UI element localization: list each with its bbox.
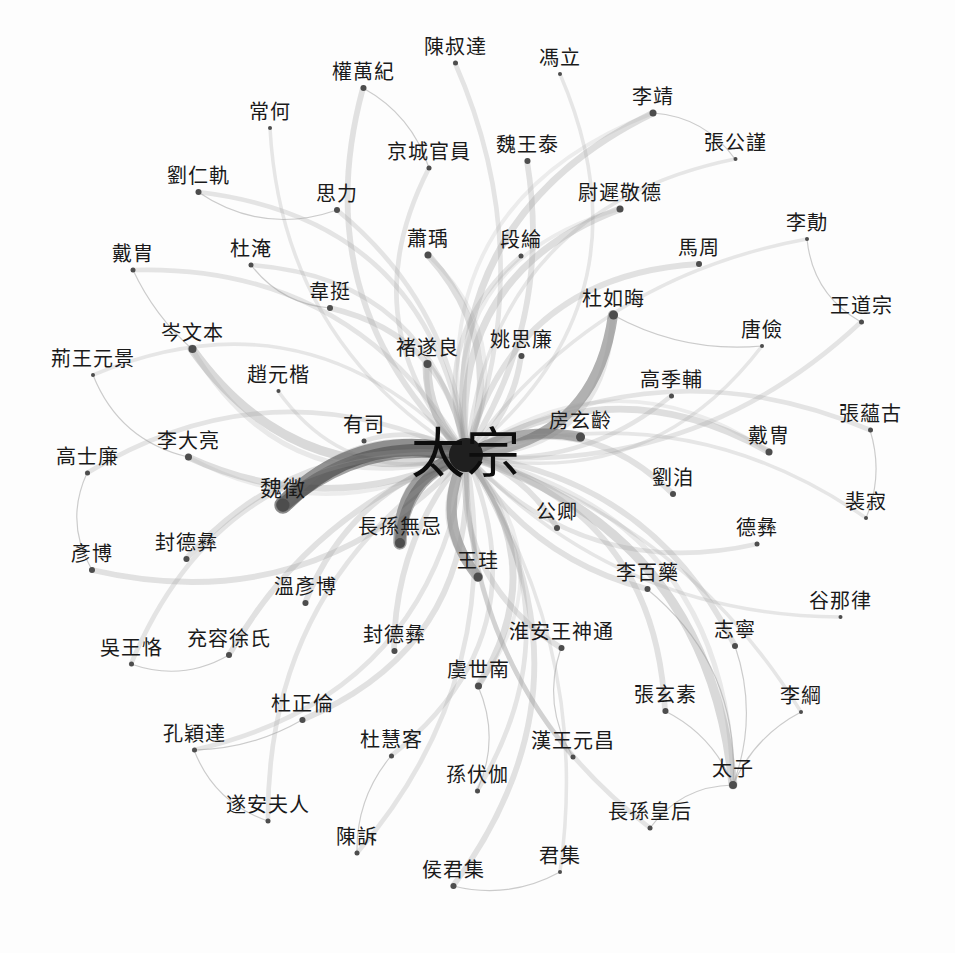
graph-node[interactable]: 馮立 — [539, 64, 581, 84]
graph-node[interactable]: 公卿 — [536, 518, 578, 538]
graph-node[interactable]: 王珪 — [457, 567, 499, 587]
graph-node[interactable]: 段綸 — [500, 246, 542, 266]
graph-node[interactable]: 侯君集 — [422, 876, 485, 896]
node-dot-icon — [192, 748, 197, 753]
graph-node[interactable]: 劉仁軌 — [167, 182, 230, 202]
node-dot-icon — [360, 85, 366, 91]
node-dot-icon — [755, 542, 760, 547]
graph-node[interactable]: 長孫無忌 — [358, 533, 442, 553]
graph-node[interactable]: 淮安王神通 — [509, 638, 614, 658]
graph-node[interactable]: 馬周 — [678, 254, 720, 274]
node-label: 遂安夫人 — [226, 795, 310, 815]
node-dot-icon — [732, 643, 738, 649]
graph-node[interactable]: 張蘊古 — [839, 420, 902, 440]
graph-node[interactable]: 張玄素 — [634, 701, 697, 721]
graph-node[interactable]: 思力 — [316, 200, 358, 220]
graph-node[interactable]: 遂安夫人 — [226, 811, 310, 831]
node-label: 孫伏伽 — [446, 765, 509, 785]
node-label: 谷那律 — [809, 591, 872, 611]
graph-node[interactable]: 杜淹 — [230, 255, 272, 275]
graph-node[interactable]: 趙元楷 — [247, 381, 310, 401]
node-dot-icon — [868, 428, 873, 433]
node-label: 德彝 — [736, 518, 778, 538]
graph-node[interactable]: 陳訴 — [336, 843, 378, 863]
graph-node[interactable]: 高士廉 — [56, 463, 119, 483]
graph-node[interactable]: 溫彥博 — [274, 593, 337, 613]
graph-node[interactable]: 裴寂 — [845, 508, 887, 528]
node-label: 尉遲敬德 — [578, 183, 662, 203]
graph-node[interactable]: 杜正倫 — [271, 710, 334, 730]
graph-node[interactable]: 封德彝 — [155, 549, 218, 569]
graph-node[interactable]: 谷那律 — [809, 607, 872, 627]
graph-node[interactable]: 常何 — [249, 118, 291, 138]
graph-node[interactable]: 彥博 — [71, 560, 113, 580]
graph-node[interactable]: 德彝 — [736, 534, 778, 554]
graph-node[interactable]: 王道宗 — [830, 312, 893, 332]
graph-node[interactable]: 吳王恪 — [100, 654, 163, 674]
graph-node[interactable]: 魏徵 — [260, 494, 306, 516]
node-label: 侯君集 — [422, 860, 485, 880]
node-dot-icon — [276, 389, 280, 393]
graph-node[interactable]: 孔穎達 — [163, 740, 226, 760]
graph-node[interactable]: 高季輔 — [640, 386, 703, 406]
node-dot-icon — [554, 525, 560, 531]
node-dot-icon — [268, 126, 272, 130]
node-dot-icon — [696, 261, 702, 267]
graph-node[interactable]: 戴胄 — [112, 260, 154, 280]
graph-node[interactable]: 志寧 — [714, 636, 756, 656]
graph-node[interactable]: 戴冑 — [748, 442, 790, 462]
node-label: 李靖 — [632, 87, 674, 107]
graph-node[interactable]: 李大亮 — [157, 447, 220, 467]
graph-node[interactable]: 姚思廉 — [490, 346, 553, 366]
node-label: 淮安王神通 — [509, 622, 614, 642]
node-label: 李勣 — [786, 213, 828, 233]
graph-node[interactable]: 杜慧客 — [360, 746, 423, 766]
node-dot-icon — [644, 586, 650, 592]
graph-node[interactable]: 孫伏伽 — [446, 781, 509, 801]
graph-node[interactable]: 虞世南 — [447, 676, 510, 696]
graph-node[interactable]: 李勣 — [786, 229, 828, 249]
graph-node[interactable]: 李靖 — [632, 103, 674, 123]
graph-node[interactable]: 荊王元景 — [51, 365, 135, 385]
node-dot-icon — [766, 449, 773, 456]
graph-node[interactable]: 漢王元昌 — [531, 747, 615, 767]
graph-node-hub[interactable]: 太宗 — [411, 428, 521, 482]
node-dot-icon — [131, 268, 136, 273]
graph-node[interactable]: 唐儉 — [741, 336, 783, 356]
node-label: 彥博 — [71, 544, 113, 564]
graph-node[interactable]: 褚遂良 — [396, 354, 459, 374]
node-label: 杜淹 — [230, 239, 272, 259]
graph-node[interactable]: 韋挺 — [309, 298, 351, 318]
graph-node[interactable]: 長孫皇后 — [608, 818, 692, 838]
node-dot-icon — [355, 851, 360, 856]
graph-node[interactable]: 太子 — [712, 775, 754, 795]
graph-node[interactable]: 李百藥 — [616, 579, 679, 599]
node-dot-icon — [183, 556, 189, 562]
node-dot-icon — [518, 353, 524, 359]
node-label: 張蘊古 — [839, 404, 902, 424]
graph-node[interactable]: 有司 — [343, 431, 385, 451]
graph-node[interactable]: 杜如晦 — [582, 305, 645, 325]
graph-node[interactable]: 陳叔達 — [424, 53, 487, 73]
node-label: 劉洎 — [652, 468, 694, 488]
graph-node[interactable]: 權萬紀 — [332, 78, 395, 98]
graph-node[interactable]: 封德彝 — [363, 641, 426, 661]
graph-node[interactable]: 張公謹 — [704, 149, 767, 169]
graph-node[interactable]: 尉遲敬德 — [578, 199, 662, 219]
node-label: 漢王元昌 — [531, 731, 615, 751]
node-dot-icon — [669, 394, 674, 399]
graph-node[interactable]: 劉洎 — [652, 484, 694, 504]
node-label: 太子 — [712, 759, 754, 779]
node-label: 王珪 — [457, 551, 499, 571]
graph-node[interactable]: 京城官員 — [387, 158, 471, 178]
graph-node[interactable]: 充容徐氏 — [187, 645, 271, 665]
graph-node[interactable]: 魏王泰 — [496, 151, 559, 171]
graph-node[interactable]: 君集 — [539, 862, 581, 882]
graph-node[interactable]: 岑文本 — [161, 339, 224, 359]
graph-node[interactable]: 李綱 — [780, 702, 822, 722]
node-dot-icon — [391, 648, 397, 654]
graph-node[interactable]: 房玄齡 — [549, 427, 612, 447]
graph-node[interactable]: 蕭瑀 — [407, 245, 449, 265]
node-dot-icon — [129, 662, 134, 667]
node-label: 岑文本 — [161, 323, 224, 343]
